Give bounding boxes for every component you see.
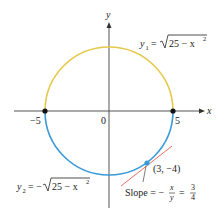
svg-text:x: x xyxy=(169,183,174,192)
svg-text:2: 2 xyxy=(23,187,26,194)
svg-text:y: y xyxy=(16,181,22,192)
svg-text:1: 1 xyxy=(146,44,149,51)
svg-text:4: 4 xyxy=(191,193,195,202)
slope-annotation: Slope = − x y = 3 4 xyxy=(125,183,196,202)
svg-text:2: 2 xyxy=(203,35,206,42)
y-axis-arrow-icon xyxy=(107,22,112,28)
upper-curve-label: y 1 = 25 − x 2 xyxy=(139,35,207,51)
endpoint-neg5 xyxy=(42,108,47,113)
tangent-point xyxy=(144,160,149,165)
tick-label-neg5: −5 xyxy=(30,115,41,126)
svg-text:25 − x: 25 − x xyxy=(52,181,78,192)
y-axis: y xyxy=(105,9,112,208)
tick-label-pos5: 5 xyxy=(175,115,180,126)
svg-text:Slope = −: Slope = − xyxy=(125,187,164,198)
origin-label: 0 xyxy=(101,115,106,126)
svg-text:= −: = − xyxy=(28,181,42,192)
svg-text:=: = xyxy=(151,38,157,49)
y-axis-label: y xyxy=(105,9,111,20)
svg-text:25 − x: 25 − x xyxy=(169,38,195,49)
svg-text:y: y xyxy=(139,38,145,49)
svg-text:=: = xyxy=(179,187,185,198)
svg-text:y: y xyxy=(169,193,174,202)
x-axis-arrow-icon xyxy=(199,109,205,114)
endpoint-pos5 xyxy=(170,108,175,113)
lower-curve-label: y 2 = − 25 − x 2 xyxy=(16,178,90,194)
point-label: (3, −4) xyxy=(153,163,180,175)
svg-text:3: 3 xyxy=(191,183,195,192)
circle-implicit-differentiation-diagram: x y −5 5 0 y 1 = 25 − x 2 y 2 = − 25 − x… xyxy=(0,0,220,220)
svg-text:2: 2 xyxy=(86,178,89,185)
x-axis-label: x xyxy=(206,105,212,116)
